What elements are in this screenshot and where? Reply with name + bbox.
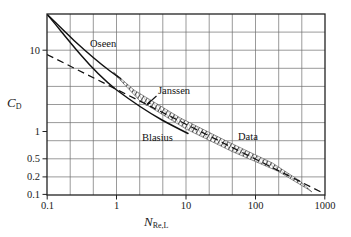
- y-axis-title: CD: [7, 95, 21, 111]
- y-axis-ticks: [43, 50, 48, 194]
- y-axis-title-main: C: [7, 95, 16, 110]
- x-tick-label-0-1: 0.1: [32, 200, 63, 211]
- chart-figure: CD NRe,L 10 1 0.5 0.2 0.1 0.1 1 10 100 1…: [0, 0, 351, 237]
- x-axis-ticks: [47, 195, 325, 200]
- x-tick-label-10: 10: [172, 200, 200, 211]
- annotation-blasius: Blasius: [142, 132, 173, 143]
- y-tick-label-0-1: 0.1: [8, 189, 40, 200]
- x-tick-label-1: 1: [103, 200, 130, 211]
- x-tick-label-1000: 1000: [307, 200, 343, 211]
- x-axis-title-sub: Re,L: [153, 221, 169, 230]
- x-axis-title-main: N: [144, 214, 153, 229]
- y-tick-label-1: 1: [10, 126, 40, 137]
- annotation-oseen: Oseen: [90, 38, 116, 49]
- annotation-data: Data: [238, 131, 258, 142]
- y-tick-label-10: 10: [10, 45, 40, 56]
- x-tick-label-100: 100: [240, 200, 271, 211]
- x-axis-title: NRe,L: [144, 214, 168, 230]
- y-tick-label-0-2: 0.2: [8, 171, 40, 182]
- annotation-janssen: Janssen: [158, 85, 190, 96]
- y-axis-title-sub: D: [16, 102, 22, 111]
- y-tick-label-0-5: 0.5: [8, 153, 40, 164]
